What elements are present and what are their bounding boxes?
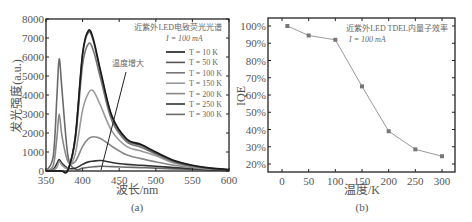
- panel-b-title: 近紫外LED TDEL内量子效率: [346, 23, 448, 33]
- x-tick-label: 50: [303, 175, 315, 187]
- legend-label: T = 50 K: [189, 58, 218, 67]
- x-tick-label: 400: [74, 174, 91, 186]
- y-tick-label: 80%: [246, 55, 266, 67]
- y-tick-label: 8000: [22, 13, 45, 25]
- y-tick-label: 2000: [22, 127, 45, 139]
- legend-label: T = 200 K: [189, 90, 222, 99]
- x-tick-label: 100: [327, 175, 344, 187]
- y-tick-label: 70%: [246, 72, 266, 84]
- panel-b-x-axis-title: 温度/K: [344, 182, 380, 197]
- iqe-data-point: [307, 33, 311, 37]
- iqe-data-point: [333, 38, 337, 42]
- panel-a-x-axis-title: 波长/nm: [116, 183, 159, 197]
- panel-b-iqe-chart: 20%30%40%50%60%70%80%90%100% 05010015020…: [234, 18, 455, 214]
- legend-label: T = 300 K: [189, 110, 222, 119]
- panel-b-y-axis-title: IQE: [234, 86, 248, 106]
- y-tick-label: 100%: [240, 20, 266, 32]
- iqe-data-point: [360, 84, 364, 88]
- panel-b-label: (b): [356, 201, 369, 214]
- y-tick-label: 20%: [246, 158, 266, 170]
- y-tick-label: 40%: [246, 124, 266, 136]
- figure: 010002000300040005000600070008000 350400…: [0, 0, 472, 222]
- panel-a-title: 近紫外LED电致荧光光谱: [134, 22, 222, 32]
- x-tick-label: 250: [407, 175, 424, 187]
- panel-b-y-ticks: 20%30%40%50%60%70%80%90%100%: [240, 20, 455, 170]
- y-tick-label: 30%: [246, 141, 266, 153]
- panel-a-label: (a): [131, 201, 144, 214]
- y-tick-label: 6000: [22, 51, 45, 63]
- iqe-data-point: [440, 154, 444, 158]
- iqe-line: [287, 26, 442, 156]
- panel-b-current: I = 100 mA: [348, 35, 386, 44]
- panel-a-y-axis-title: 发光强度(a.u.): [9, 59, 24, 132]
- iqe-data-point: [387, 129, 391, 133]
- y-tick-label: 5000: [22, 70, 45, 82]
- arrow-label: 温度增大: [112, 58, 144, 68]
- x-tick-label: 350: [38, 174, 55, 186]
- y-tick-label: 60%: [246, 89, 266, 101]
- legend-label: T = 150 K: [189, 79, 222, 88]
- panel-a-legend: T = 10 KT = 50 KT = 100 KT = 150 KT = 20…: [166, 48, 222, 119]
- legend-label: T = 100 K: [189, 69, 222, 78]
- legend-label: T = 10 K: [189, 48, 218, 57]
- panel-a-current: I = 100 mA: [165, 34, 203, 43]
- y-tick-label: 90%: [246, 37, 266, 49]
- x-tick-label: 600: [221, 174, 238, 186]
- x-tick-label: 550: [184, 174, 201, 186]
- x-tick-label: 300: [434, 175, 451, 187]
- y-tick-label: 50%: [246, 106, 266, 118]
- x-tick-label: 0: [279, 175, 285, 187]
- y-tick-label: 3000: [22, 108, 45, 120]
- x-tick-label: 200: [380, 175, 397, 187]
- legend-label: T = 250 K: [189, 100, 222, 109]
- iqe-series: [285, 24, 444, 158]
- panel-a-spectrum-chart: 010002000300040005000600070008000 350400…: [9, 13, 238, 214]
- iqe-data-point: [285, 24, 289, 28]
- y-tick-label: 4000: [22, 89, 45, 101]
- y-tick-label: 7000: [22, 32, 45, 44]
- iqe-data-point: [413, 147, 417, 151]
- y-tick-label: 1000: [22, 146, 45, 158]
